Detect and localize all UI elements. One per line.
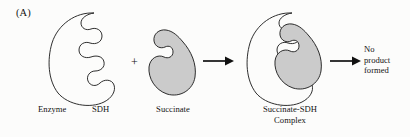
enzyme-blob-icon — [46, 10, 130, 108]
caption-enzyme: Enzyme — [38, 104, 66, 115]
caption-complex: Succinate-SDH Complex — [240, 104, 340, 126]
enzyme-substrate-complex-icon — [244, 10, 336, 108]
right-arrow-icon — [329, 53, 363, 69]
right-arrow-icon — [202, 53, 236, 69]
plus-icon: + — [131, 56, 138, 68]
caption-substrate: Succinate — [146, 104, 200, 115]
substrate-blob-icon — [146, 26, 200, 100]
outcome-line-3: formed — [364, 65, 390, 76]
outcome-line-2: product — [364, 55, 390, 66]
panel-label: (A) — [16, 7, 31, 18]
outcome-line-1: No — [364, 44, 390, 55]
outcome-text: No product formed — [364, 44, 390, 76]
caption-complex-line-2: Complex — [240, 115, 340, 126]
figure-panel-a: (A) + No product formed Enzyme SDH Succi… — [0, 0, 410, 137]
caption-enzyme-abbrev: SDH — [92, 104, 109, 115]
caption-complex-line-1: Succinate-SDH — [240, 104, 340, 115]
